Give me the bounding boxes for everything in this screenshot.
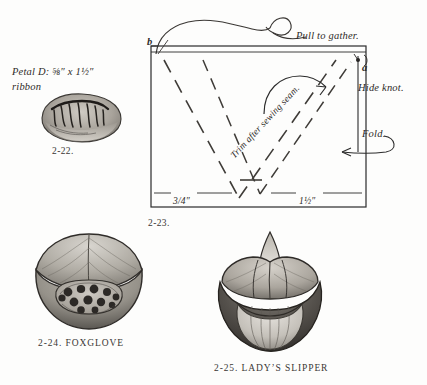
measurement-right: 1½″ xyxy=(299,196,315,206)
figure-caption-2-22-text: 2-22. xyxy=(52,146,74,156)
label-pull-to-gather: Pull to gather. xyxy=(296,30,359,41)
diagram-leader-lines xyxy=(340,52,427,162)
figure-caption-2-25: 2-25. LADY’S SLIPPER xyxy=(214,363,328,373)
petal-d-label: Petal D: ⅝″ x 1½″ ribbon xyxy=(12,64,132,94)
measurement-left: 3/4″ xyxy=(173,196,190,206)
measurement-left-text: 3/4″ xyxy=(173,196,190,206)
thread-path xyxy=(156,18,306,54)
point-b-text: b xyxy=(147,36,152,47)
petal-d-line1: Petal D: ⅝″ x 1½″ xyxy=(12,66,94,77)
figure-caption-2-23-text: 2-23. xyxy=(148,218,170,228)
plate-page: Petal D: ⅝″ x 1½″ ribbon xyxy=(0,0,427,385)
seam-line-inner-v xyxy=(203,60,351,194)
figure-caption-2-24: 2-24. FOXGLOVE xyxy=(38,338,124,348)
ladys-slipper-illustration xyxy=(208,230,332,356)
figure-caption-2-22: 2-22. xyxy=(52,146,74,156)
figure-caption-2-25-text: 2-25. LADY’S SLIPPER xyxy=(214,363,328,373)
petal-d-illustration xyxy=(38,92,124,144)
diagram-point-b-label: b xyxy=(147,36,152,47)
foxglove-illustration xyxy=(26,232,152,334)
label-pull-to-gather-text: Pull to gather. xyxy=(296,30,359,41)
figure-caption-2-24-text: 2-24. FOXGLOVE xyxy=(38,338,124,348)
figure-caption-2-23: 2-23. xyxy=(148,218,170,228)
measurement-right-text: 1½″ xyxy=(299,196,315,206)
